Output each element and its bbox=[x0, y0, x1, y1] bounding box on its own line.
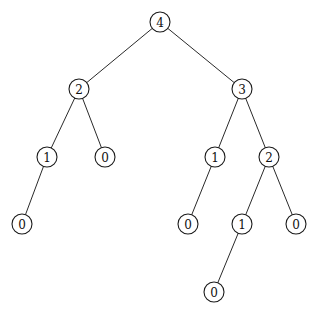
node-label: 1 bbox=[43, 151, 51, 165]
tree-edge bbox=[83, 98, 102, 147]
tree-edge bbox=[273, 166, 293, 214]
node-label: 0 bbox=[292, 218, 300, 232]
node-label: 4 bbox=[156, 16, 164, 30]
tree-node: 2 bbox=[259, 147, 279, 167]
tree-edge bbox=[246, 166, 266, 214]
node-label: 0 bbox=[184, 218, 192, 232]
tree-edge bbox=[219, 98, 239, 147]
node-label: 1 bbox=[211, 151, 219, 165]
tree-node: 4 bbox=[150, 12, 170, 32]
tree-node: 0 bbox=[178, 214, 198, 234]
node-label: 2 bbox=[75, 83, 83, 97]
tree-edge bbox=[218, 233, 238, 283]
tree-edge bbox=[25, 166, 43, 214]
tree-node: 3 bbox=[232, 79, 252, 99]
node-label: 0 bbox=[101, 151, 109, 165]
tree-diagram: 423101200100 bbox=[0, 0, 316, 313]
tree-node: 0 bbox=[286, 214, 306, 234]
node-label: 3 bbox=[238, 83, 246, 97]
node-label: 0 bbox=[210, 286, 218, 300]
tree-node: 0 bbox=[95, 147, 115, 167]
tree-edge bbox=[87, 28, 153, 82]
tree-node: 0 bbox=[12, 214, 32, 234]
tree-edge bbox=[168, 28, 235, 82]
tree-edge bbox=[246, 98, 266, 147]
tree-edge bbox=[51, 98, 74, 148]
tree-node: 2 bbox=[69, 79, 89, 99]
tree-node: 1 bbox=[37, 147, 57, 167]
tree-edge bbox=[192, 166, 212, 214]
tree-node: 0 bbox=[204, 282, 224, 302]
tree-edges bbox=[25, 28, 292, 282]
tree-nodes: 423101200100 bbox=[12, 12, 306, 302]
tree-node: 1 bbox=[205, 147, 225, 167]
node-label: 2 bbox=[265, 151, 273, 165]
node-label: 1 bbox=[238, 218, 246, 232]
tree-node: 1 bbox=[232, 214, 252, 234]
node-label: 0 bbox=[18, 218, 26, 232]
